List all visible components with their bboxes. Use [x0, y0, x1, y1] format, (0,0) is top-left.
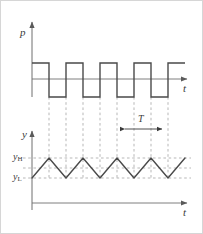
level-high-subscript: H: [17, 155, 22, 163]
p-axis-label: p: [20, 27, 26, 38]
square-wave-trace: [32, 63, 185, 97]
y-axis-label: y: [22, 129, 27, 140]
period-label: T: [138, 114, 144, 124]
waveform-canvas: [1, 1, 203, 234]
top-plot-axes: [32, 22, 187, 97]
figure-pulse-and-ripple-waveforms: p t y t T yH yL: [0, 0, 203, 234]
level-low-label: yL: [13, 172, 22, 183]
tie-lines-group: [49, 97, 168, 179]
bottom-plot-axes: [32, 131, 187, 210]
t-axis-bottom-label: t: [183, 207, 186, 218]
level-low-subscript: L: [17, 175, 21, 183]
t-axis-top-label: t: [183, 83, 186, 94]
level-high-label: yH: [13, 152, 23, 163]
